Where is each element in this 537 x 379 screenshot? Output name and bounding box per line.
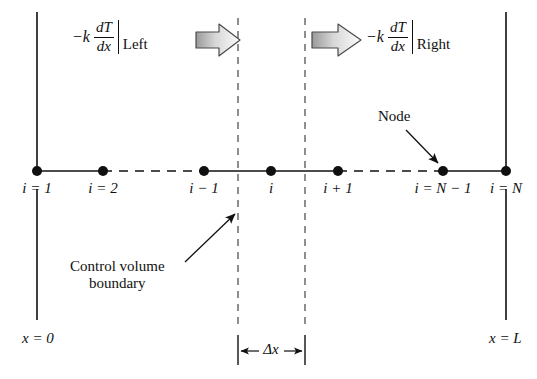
node-dots — [32, 166, 511, 176]
flux-right-coefficient: −k — [366, 28, 384, 46]
node-label-2: i = 2 — [88, 180, 117, 197]
node-callout-label: Node — [378, 108, 411, 125]
flux-left-side-label: Left — [123, 36, 148, 54]
flux-left-derivative: dT dx — [94, 20, 114, 54]
finite-difference-diagram: −k dT dx Left −k dT dx Right i = 1 i = 2… — [0, 0, 537, 379]
axis-label-x-length: x = L — [489, 330, 522, 347]
right-arrow-icon-left-flux — [196, 24, 240, 56]
evaluation-bar — [412, 20, 413, 54]
flux-expression-left: −k dT dx Left — [72, 20, 148, 54]
flux-expression-right: −k dT dx Right — [366, 20, 450, 54]
axis-label-x-zero: x = 0 — [22, 330, 54, 347]
flux-left-coefficient: −k — [72, 28, 90, 46]
node-label-i: i — [269, 180, 273, 197]
node-label-i-minus-1: i − 1 — [189, 180, 218, 197]
flux-right-side-label: Right — [417, 36, 450, 54]
right-arrow-icon-right-flux — [312, 24, 361, 56]
control-volume-callout-line2: boundary — [70, 275, 165, 292]
delta-x-label: Δx — [263, 341, 278, 358]
flux-right-derivative: dT dx — [388, 20, 408, 54]
node-label-n: i = N — [490, 180, 522, 197]
node-label-1: i = 1 — [22, 180, 51, 197]
arrow-pointer-icon-control-volume — [185, 214, 235, 262]
node-label-i-plus-1: i + 1 — [323, 180, 352, 197]
control-volume-callout: Control volume boundary — [70, 258, 165, 293]
node-label-n-minus-1: i = N − 1 — [415, 180, 472, 197]
arrow-pointer-icon-node — [406, 130, 438, 163]
control-volume-callout-line1: Control volume — [70, 258, 165, 275]
evaluation-bar — [118, 20, 119, 54]
